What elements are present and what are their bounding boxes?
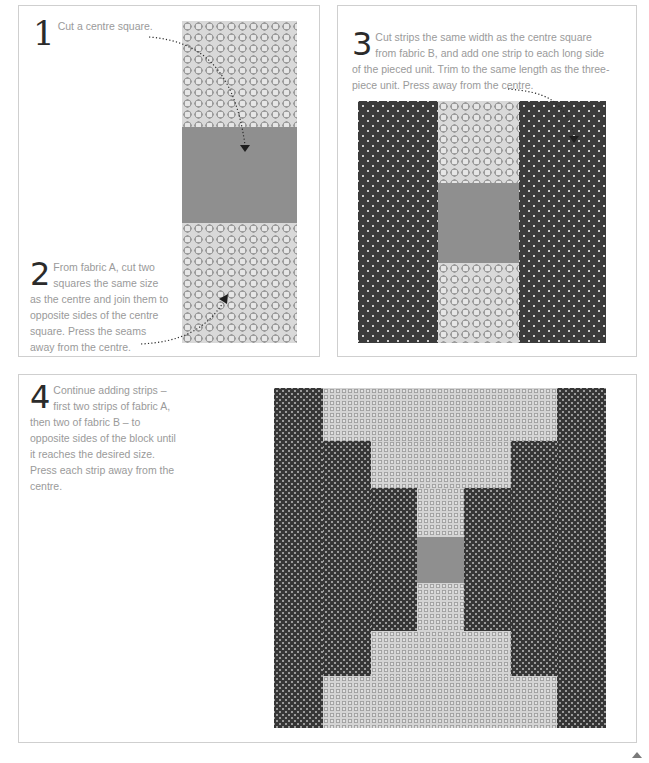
page-corner-icon: [631, 751, 643, 759]
step-panel-4: 4 Continue adding strips – first two str…: [18, 374, 637, 743]
step-3-number: 3: [352, 30, 372, 58]
step-4: 4 Continue adding strips – first two str…: [30, 382, 180, 494]
fabric-b-strip-right: [519, 101, 606, 343]
fabric-b-outer-right: [557, 388, 606, 728]
fabric-b-inner-left: [371, 488, 417, 631]
fabric-a-inner-bottom: [417, 583, 464, 631]
fabric-a-square-top: [438, 101, 519, 183]
fabric-b-inner-right: [464, 488, 511, 631]
fabric-b-second-left: [323, 441, 371, 676]
step-3-text: Cut strips the same width as the centre …: [352, 31, 609, 91]
step-2-number: 2: [30, 260, 50, 288]
fabric-a-square-bottom: [438, 263, 519, 343]
fabric-b-strip-left: [358, 101, 438, 343]
fabric-a-second-bottom: [371, 631, 511, 676]
step-3: 3 Cut strips the same width as the centr…: [352, 29, 612, 93]
fabric-a-square-bottom: [182, 223, 297, 343]
step-2-text: From fabric A, cut two squares the same …: [30, 261, 168, 353]
step-panel-1-2: 1 Cut a centre square. 2 From fabric A, …: [18, 5, 320, 357]
step-panel-3: 3 Cut strips the same width as the centr…: [337, 5, 637, 357]
fabric-a-square-top: [182, 21, 297, 127]
step-4-text: Continue adding strips – first two strip…: [30, 384, 176, 492]
centre-square: [417, 537, 464, 583]
fabric-a-outer-top: [323, 388, 557, 441]
finished-block: [274, 388, 606, 728]
centre-square: [438, 183, 519, 263]
fabric-a-second-top: [371, 441, 511, 488]
centre-square: [182, 127, 297, 223]
step-4-number: 4: [30, 383, 50, 411]
step-2: 2 From fabric A, cut two squares the sam…: [30, 259, 172, 355]
fabric-b-second-right: [511, 441, 557, 676]
step-1: 1 Cut a centre square.: [33, 18, 183, 47]
fabric-b-outer-left: [274, 388, 323, 728]
step-1-text: Cut a centre square.: [58, 20, 153, 32]
fabric-a-outer-bottom: [323, 676, 557, 728]
fabric-a-inner-top: [417, 488, 464, 537]
step-1-number: 1: [33, 19, 55, 47]
